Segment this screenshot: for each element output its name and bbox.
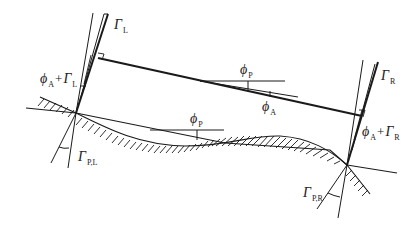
symbol: ϕ xyxy=(262,99,269,114)
right-leg xyxy=(347,60,378,165)
main-bar xyxy=(98,58,362,116)
symbol: ϕ xyxy=(40,71,47,86)
ground-hatching xyxy=(38,99,368,196)
symbol: Γ xyxy=(303,185,311,200)
operator: + xyxy=(55,71,62,86)
label-phi-p-lower: ϕP xyxy=(190,112,203,129)
subscript: A xyxy=(48,80,54,89)
subscript: R xyxy=(390,77,395,86)
symbol: Γ xyxy=(114,17,122,32)
subscript: A xyxy=(370,133,376,142)
label-gamma-pr: ΓP,R xyxy=(303,186,323,203)
operator: + xyxy=(377,124,384,139)
subscript: P xyxy=(198,120,202,129)
subscript: P xyxy=(248,71,252,80)
subscript: L xyxy=(123,26,128,35)
symbol: ϕ xyxy=(240,62,247,77)
subscript: R xyxy=(394,133,399,142)
symbol: ϕ xyxy=(190,111,197,126)
upper-angle-lines xyxy=(200,81,298,97)
left-leg xyxy=(76,13,108,113)
label-phi-a-plus-gamma-r: ϕA+ΓR xyxy=(362,125,400,142)
label-phi-a-plus-gamma-l: ϕA+ΓL xyxy=(40,72,77,89)
symbol: ϕ xyxy=(362,124,369,139)
label-gamma-r: ΓR xyxy=(381,69,395,86)
diagram-canvas xyxy=(0,0,419,227)
symbol: Γ xyxy=(63,71,71,86)
label-gamma-pl: ΓP,L xyxy=(78,150,97,167)
symbol: Γ xyxy=(385,124,393,139)
label-phi-p-upper: ϕP xyxy=(240,63,253,80)
symbol: Γ xyxy=(78,149,86,164)
symbol: Γ xyxy=(381,68,389,83)
label-phi-a: ϕA xyxy=(262,100,276,117)
subscript: P,R xyxy=(312,194,323,203)
gamma-pl-construction xyxy=(51,113,76,168)
subscript: P,L xyxy=(87,158,97,167)
subscript: A xyxy=(270,108,276,117)
label-gamma-l: ΓL xyxy=(114,18,128,35)
subscript: L xyxy=(72,80,77,89)
